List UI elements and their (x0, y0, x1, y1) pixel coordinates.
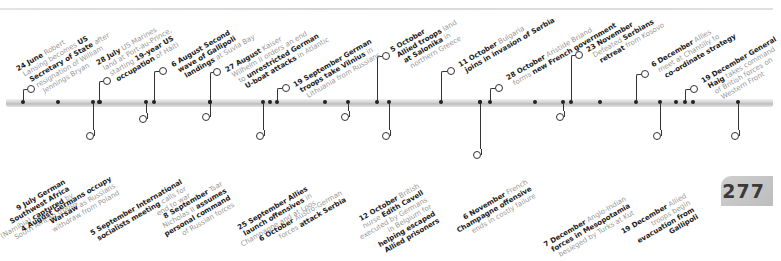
timeline-tick (323, 100, 327, 104)
page-number: 277 (722, 180, 765, 202)
connector-stem (563, 104, 564, 111)
event-node-icon (447, 67, 455, 75)
connector-stem (636, 80, 637, 101)
event-node-icon (341, 113, 349, 121)
connector-elbow (481, 149, 482, 155)
connector-elbow (739, 130, 740, 136)
event-node-icon (690, 85, 698, 93)
event-node-icon (641, 70, 649, 78)
timeline-event-below: 6 November FrenchChampagne offensiveends… (451, 178, 537, 241)
timeline-tick (674, 100, 678, 104)
timeline-tick (268, 100, 272, 104)
event-node-icon (473, 151, 481, 159)
event-node-icon (653, 132, 661, 140)
event-node-icon (159, 67, 167, 75)
connector-stem (441, 77, 442, 101)
connector-elbow (264, 130, 265, 136)
timeline-event-below: 19 December Alliedtroops beginevacuation… (620, 192, 700, 257)
event-node-icon (495, 84, 503, 92)
connector-stem (490, 94, 491, 101)
connector-stem (480, 104, 481, 149)
connector-stem (23, 95, 24, 101)
event-node-icon (382, 52, 390, 60)
connector-stem (210, 78, 211, 101)
event-emphasis: Champagne offensive (455, 185, 533, 234)
connector-stem (660, 104, 661, 130)
event-node-icon (282, 84, 290, 92)
connector-elbow (349, 111, 350, 117)
timeline-tick (533, 100, 537, 104)
connector-elbow (661, 130, 662, 136)
connector-elbow (564, 111, 565, 117)
timeline-event-below: 12 October Britishnurse Edith Cavellexec… (350, 182, 441, 261)
top-rule (0, 8, 773, 10)
event-node-icon (382, 132, 390, 140)
connector-stem (571, 61, 572, 101)
timeline-tick (56, 100, 60, 104)
connector-elbow (441, 71, 447, 77)
connector-stem (146, 104, 147, 113)
event-node-icon (86, 132, 94, 140)
connector-stem (348, 104, 349, 111)
event-node-icon (213, 68, 221, 76)
event-node-icon (256, 132, 264, 140)
connector-stem (738, 104, 739, 130)
event-node-icon (139, 115, 147, 123)
connector-stem (93, 104, 94, 130)
connector-stem (377, 62, 378, 101)
connector-elbow (390, 130, 391, 136)
event-text-line: Champagne offensive (455, 185, 533, 234)
connector-stem (210, 104, 211, 111)
connector-elbow (210, 111, 211, 117)
connector-stem (277, 94, 278, 101)
connector-stem (685, 95, 686, 101)
timeline-tick (598, 100, 602, 104)
timeline-event-above: 5 OctoberAllied troops landat Salonika i… (389, 12, 466, 75)
connector-stem (99, 87, 100, 101)
connector-stem (389, 104, 390, 130)
timeline-event-above: 28 July US Marinesland at Port-au-Prince… (95, 20, 181, 88)
connector-elbow (94, 130, 95, 136)
event-node-icon (731, 132, 739, 140)
connector-stem (263, 104, 264, 130)
timeline-tick (691, 100, 695, 104)
page-number-tab: 277 (721, 176, 773, 206)
connector-stem (154, 77, 155, 101)
event-node-icon (202, 113, 210, 121)
connector-elbow (147, 113, 148, 119)
event-node-icon (556, 113, 564, 121)
